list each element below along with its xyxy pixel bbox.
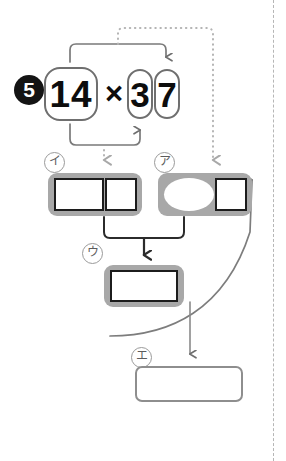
answer-slot-a[interactable] xyxy=(158,173,252,216)
label-a: ア xyxy=(154,152,175,173)
label-e: エ xyxy=(131,347,152,368)
multiplicand-14: 14 xyxy=(44,67,98,121)
answer-oval-a[interactable] xyxy=(164,178,214,211)
merge-arrow-to-slot-u xyxy=(104,217,184,255)
multiplication-sign: × xyxy=(99,67,129,121)
answer-cell-a-right[interactable] xyxy=(215,178,247,211)
answer-slot-e[interactable] xyxy=(135,366,243,402)
answer-cell-i-left[interactable] xyxy=(54,178,104,211)
worksheet-page: 5 14 × 3 7 xyxy=(0,0,286,461)
arrow-14-to-ones-digit xyxy=(70,44,166,62)
answer-slot-u[interactable] xyxy=(104,265,184,307)
multiplier-tens-digit-3: 3 xyxy=(127,69,153,119)
answer-cell-i-right[interactable] xyxy=(105,178,137,211)
label-i: イ xyxy=(44,152,65,173)
answer-cell-u[interactable] xyxy=(110,270,178,302)
arrow-14-to-tens-digit xyxy=(70,124,140,145)
multiplier-ones-digit-7: 7 xyxy=(154,69,180,119)
answer-slot-i[interactable] xyxy=(48,173,142,216)
label-u: ウ xyxy=(82,243,103,264)
problem-number-badge: 5 xyxy=(14,75,44,105)
equation-row: 5 14 × 3 7 xyxy=(0,66,200,122)
page-cut-dashed-rule xyxy=(273,0,274,461)
